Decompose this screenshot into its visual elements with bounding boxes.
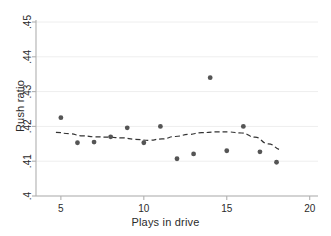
svg-text:20: 20 (304, 203, 316, 214)
svg-text:5: 5 (58, 203, 64, 214)
svg-text:10: 10 (138, 203, 150, 214)
gridlines (36, 22, 318, 196)
svg-text:.45: .45 (22, 15, 33, 29)
svg-text:15: 15 (221, 203, 233, 214)
y-axis-title: Rush ratio (14, 46, 26, 166)
smoothed-fit-line (56, 132, 282, 150)
plot-area: 5101520 .4.41.42.43.44.45 (0, 0, 331, 236)
data-points (58, 75, 278, 164)
x-axis-ticks: 5101520 (58, 196, 316, 214)
svg-text:.4: .4 (22, 191, 33, 200)
x-axis-title: Plays in drive (0, 216, 331, 228)
rush-ratio-scatter-chart: 5101520 .4.41.42.43.44.45 Plays in drive… (0, 0, 331, 236)
axis-lines (36, 20, 318, 196)
